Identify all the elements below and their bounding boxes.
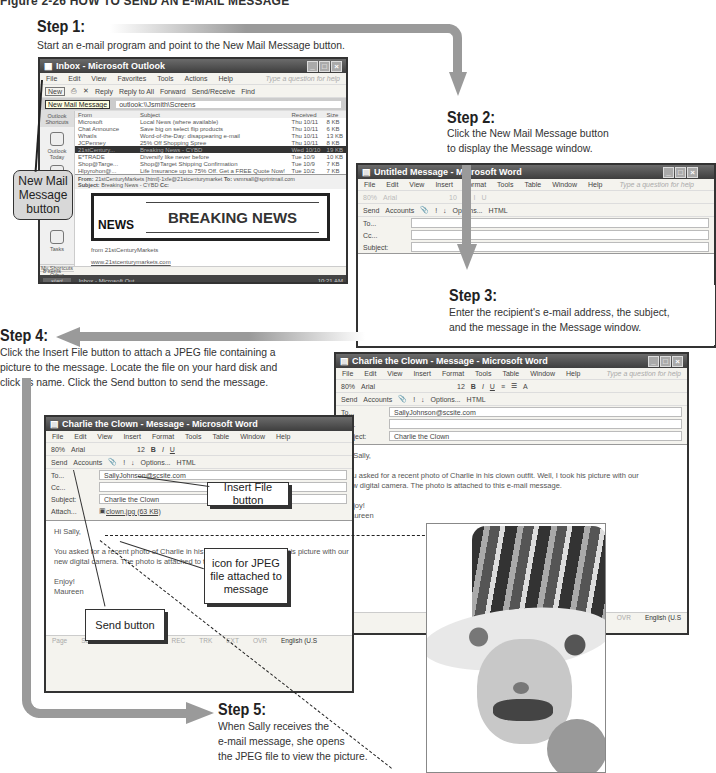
col-subject[interactable]: Subject xyxy=(137,111,289,118)
new-mail-message-button[interactable]: New xyxy=(45,87,65,96)
col-received[interactable]: Received xyxy=(289,111,324,118)
menu-edit[interactable]: Edit xyxy=(68,75,80,82)
menu-window[interactable]: Window xyxy=(530,370,555,377)
menu-file[interactable]: File xyxy=(46,75,57,82)
message-row[interactable]: JCPenney25% Off Shopping SpreeThu 10/118… xyxy=(75,139,346,146)
underline-button[interactable]: U xyxy=(481,194,486,201)
print-icon[interactable]: ⎙ xyxy=(71,87,77,95)
cc-label[interactable]: Cc... xyxy=(363,232,411,239)
to-label[interactable]: To... xyxy=(363,220,411,227)
format-select[interactable]: HTML xyxy=(489,207,508,214)
menu-edit[interactable]: Edit xyxy=(386,181,398,188)
underline-button[interactable]: U xyxy=(170,446,175,453)
italic-button[interactable]: I xyxy=(473,194,475,201)
attachment-link[interactable]: clown.jpg (63 KB) xyxy=(106,508,161,515)
menu-tools[interactable]: Tools xyxy=(497,181,513,188)
bullets-icon[interactable]: ☰ xyxy=(511,382,517,390)
menu-window[interactable]: Window xyxy=(552,181,577,188)
underline-button[interactable]: U xyxy=(490,383,495,390)
menu-edit[interactable]: Edit xyxy=(364,370,376,377)
maximize-button[interactable]: □ xyxy=(675,167,686,178)
send-button[interactable]: Send xyxy=(341,396,357,403)
preview-link[interactable]: www.21stcenturymarkets.com xyxy=(91,259,330,265)
send-receive-button[interactable]: Send/Receive xyxy=(192,88,236,95)
importance-high-button[interactable]: ! xyxy=(435,207,437,214)
accounts-button[interactable]: Accounts xyxy=(73,459,102,466)
menu-insert[interactable]: Insert xyxy=(413,370,431,377)
menu-format[interactable]: Format xyxy=(442,370,464,377)
size-select[interactable]: 12 xyxy=(457,383,465,390)
format-select[interactable]: HTML xyxy=(467,396,486,403)
find-button[interactable]: Find xyxy=(241,88,255,95)
close-button[interactable]: × xyxy=(687,167,698,178)
menu-tools[interactable]: Tools xyxy=(157,75,173,82)
forward-button[interactable]: Forward xyxy=(160,88,186,95)
importance-high-button[interactable]: ! xyxy=(413,396,415,403)
maximize-button[interactable]: □ xyxy=(660,356,671,367)
minimize-button[interactable]: _ xyxy=(307,61,318,72)
to-input[interactable]: SallyJohnson@scsite.com xyxy=(389,407,682,417)
menu-view[interactable]: View xyxy=(387,370,402,377)
taskbar-item-inbox[interactable]: Inbox - Microsoft Out... xyxy=(79,278,140,284)
message-row[interactable]: WhatIsWord-of-the-Day: disappearing e-ma… xyxy=(75,132,346,139)
close-button[interactable]: × xyxy=(331,61,342,72)
bold-button[interactable]: B xyxy=(471,383,476,390)
message-row[interactable]: Shop@Targe...Shop@Target Shipping Confir… xyxy=(75,160,346,167)
subject-input[interactable] xyxy=(411,242,709,252)
zoom-select[interactable]: 80% xyxy=(363,194,377,201)
message-row[interactable]: E*TRADEDiversify like never beforeTue 10… xyxy=(75,153,346,160)
to-input[interactable] xyxy=(411,218,709,228)
menu-help[interactable]: Help xyxy=(219,75,233,82)
insert-file-icon[interactable]: 📎 xyxy=(398,395,407,403)
italic-button[interactable]: I xyxy=(162,446,164,453)
address-input[interactable]: outlook:\\Jsmith\Screens xyxy=(116,101,341,108)
message-row[interactable]: MicrosoftLocal News (where available)Thu… xyxy=(75,118,346,125)
menu-view[interactable]: View xyxy=(409,181,424,188)
jpeg-attachment-icon[interactable]: ▣ xyxy=(99,507,106,515)
menu-insert[interactable]: Insert xyxy=(435,181,453,188)
menu-file[interactable]: File xyxy=(342,370,353,377)
col-from[interactable]: From xyxy=(75,111,137,118)
maximize-button[interactable]: □ xyxy=(319,61,330,72)
minimize-button[interactable]: _ xyxy=(663,167,674,178)
shortcut-outlook-today[interactable]: Outlook Today xyxy=(40,127,74,160)
menu-favorites[interactable]: Favorites xyxy=(117,75,146,82)
menu-tools[interactable]: Tools xyxy=(475,370,491,377)
cc-input[interactable] xyxy=(389,419,682,429)
start-button[interactable]: start xyxy=(43,278,71,284)
menu-table[interactable]: Table xyxy=(524,181,541,188)
reply-button[interactable]: Reply xyxy=(95,88,113,95)
delete-icon[interactable]: ✕ xyxy=(83,87,89,95)
message-row-selected[interactable]: 21stCentury...Breaking News - CYBDWed 10… xyxy=(75,146,346,153)
subject-input[interactable]: Charlie the Clown xyxy=(389,431,682,441)
options-button[interactable]: Options... xyxy=(431,396,461,403)
font-color-icon[interactable]: A xyxy=(523,383,528,390)
menu-table[interactable]: Table xyxy=(502,370,519,377)
close-button[interactable]: × xyxy=(672,356,683,367)
menu-view[interactable]: View xyxy=(91,75,106,82)
help-search-box[interactable]: Type a question for help xyxy=(619,181,694,188)
zoom-select[interactable]: 80% xyxy=(341,383,355,390)
insert-file-icon[interactable]: 📎 xyxy=(420,206,429,214)
menu-help[interactable]: Help xyxy=(566,370,580,377)
menu-file[interactable]: File xyxy=(364,181,375,188)
menu-help[interactable]: Help xyxy=(588,181,602,188)
shortcut-tasks[interactable]: Tasks xyxy=(40,225,74,252)
message-row[interactable]: Hlpyrohon@...Life Insurance up to 75% Of… xyxy=(75,167,346,174)
bold-button[interactable]: B xyxy=(151,446,156,453)
size-select[interactable]: 10 xyxy=(449,194,457,201)
message-row[interactable]: Chat AnnounceSave big on select flip pro… xyxy=(75,125,346,132)
cc-input[interactable] xyxy=(411,230,709,240)
send-button[interactable]: Send xyxy=(51,459,67,466)
col-size[interactable]: Size xyxy=(324,111,346,118)
minimize-button[interactable]: _ xyxy=(648,356,659,367)
menu-actions[interactable]: Actions xyxy=(185,75,208,82)
font-select[interactable]: Arial xyxy=(361,383,451,390)
italic-button[interactable]: I xyxy=(482,383,484,390)
accounts-button[interactable]: Accounts xyxy=(385,207,414,214)
accounts-button[interactable]: Accounts xyxy=(363,396,392,403)
help-search-box[interactable]: Type a question for help xyxy=(606,370,681,377)
reply-all-button[interactable]: Reply to All xyxy=(119,88,154,95)
insert-file-button[interactable]: 📎 xyxy=(108,458,117,466)
send-button[interactable]: Send xyxy=(363,207,379,214)
